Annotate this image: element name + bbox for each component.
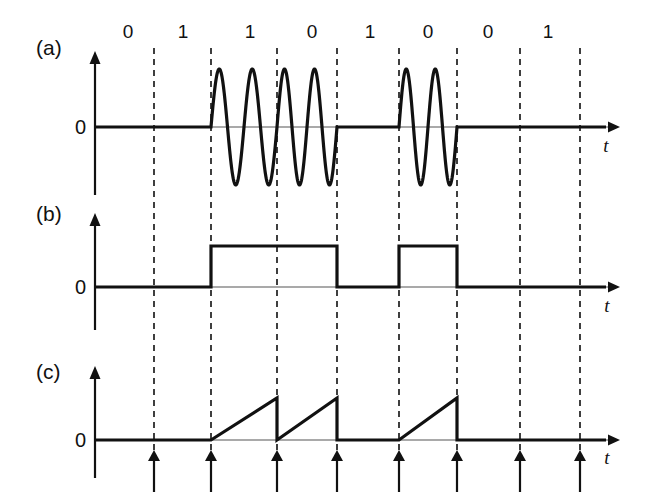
signal-waveform-figure: 01101001 (a)0t(b)0t(c)0t — [0, 0, 651, 497]
panel-caption: (c) — [36, 360, 61, 383]
bit-label: 0 — [307, 21, 318, 42]
sampling-arrow-head — [574, 450, 586, 461]
sampling-arrow-head — [331, 450, 343, 461]
square-pulse-waveform — [95, 246, 606, 287]
bit-label: 1 — [543, 21, 554, 42]
y-axis-arrowhead — [90, 366, 101, 379]
panels-layer: (a)0t(b)0t(c)0t — [36, 36, 620, 478]
sampling-arrow-head — [205, 450, 217, 461]
panel-a: (a)0t — [36, 36, 620, 195]
y-axis-arrowhead — [90, 213, 101, 226]
bit-boundary-gridlines — [154, 48, 580, 455]
panel-c: (c)0t — [36, 360, 620, 478]
time-axis-label: t — [604, 295, 610, 316]
x-axis-arrowhead — [608, 122, 620, 133]
bit-label: 1 — [245, 21, 256, 42]
zero-axis-label: 0 — [75, 276, 86, 298]
y-axis-arrowhead — [90, 51, 101, 64]
ramp-waveform — [95, 398, 606, 440]
panel-caption: (a) — [36, 36, 62, 59]
x-axis-arrowhead — [608, 435, 620, 446]
sampling-arrow-head — [148, 450, 160, 461]
bit-label: 1 — [178, 21, 189, 42]
bit-label: 0 — [423, 21, 434, 42]
bit-label: 0 — [483, 21, 494, 42]
x-axis-arrowhead — [608, 282, 620, 293]
sampling-arrow-row — [148, 450, 586, 492]
bit-label-row: 01101001 — [123, 21, 554, 42]
bit-label: 0 — [123, 21, 134, 42]
sampling-arrow-head — [393, 450, 405, 461]
time-axis-label: t — [603, 135, 609, 156]
figure-canvas: 01101001 (a)0t(b)0t(c)0t — [0, 0, 651, 497]
zero-axis-label: 0 — [75, 116, 86, 138]
panel-caption: (b) — [36, 202, 62, 225]
sampling-arrow-head — [514, 450, 526, 461]
sampling-arrow-head — [451, 450, 463, 461]
time-axis-label: t — [604, 447, 610, 468]
bit-label: 1 — [365, 21, 376, 42]
sampling-arrow-head — [271, 450, 283, 461]
panel-b: (b)0t — [36, 202, 620, 330]
ask-waveform — [95, 69, 606, 185]
zero-axis-label: 0 — [75, 429, 86, 451]
